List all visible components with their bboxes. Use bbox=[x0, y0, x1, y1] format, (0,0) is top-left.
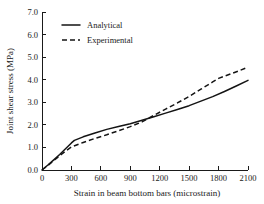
line-chart: 0.0 1.0 2.0 3.0 4.0 5.0 6.0 7.0 0 300 60… bbox=[0, 0, 264, 204]
x-axis-title: Strain in beam bottom bars (microstrain) bbox=[74, 188, 221, 198]
x-tick-label: 1200 bbox=[151, 173, 168, 183]
x-tick-label: 1500 bbox=[181, 173, 198, 183]
x-tick-label: 600 bbox=[95, 173, 108, 183]
y-axis-title: Joint shear stress (MPa) bbox=[5, 48, 15, 134]
y-tick-label: 0.0 bbox=[27, 165, 38, 175]
y-tick-label: 2.0 bbox=[27, 120, 38, 130]
y-tick-label: 7.0 bbox=[27, 7, 38, 17]
y-tick-label: 1.0 bbox=[27, 142, 38, 152]
y-tick-label: 4.0 bbox=[27, 75, 38, 85]
x-tick-label: 0 bbox=[40, 173, 44, 183]
x-tick-label: 300 bbox=[65, 173, 78, 183]
x-tick-label: 900 bbox=[124, 173, 137, 183]
legend-label-analytical: Analytical bbox=[87, 20, 123, 30]
x-tick-label: 2100 bbox=[240, 173, 257, 183]
chart-figure: 0.0 1.0 2.0 3.0 4.0 5.0 6.0 7.0 0 300 60… bbox=[0, 0, 264, 204]
legend-label-experimental: Experimental bbox=[87, 35, 133, 45]
y-tick-label: 5.0 bbox=[27, 52, 38, 62]
y-tick-label: 3.0 bbox=[27, 97, 38, 107]
y-tick-label: 6.0 bbox=[27, 30, 38, 40]
x-tick-label: 1800 bbox=[210, 173, 227, 183]
